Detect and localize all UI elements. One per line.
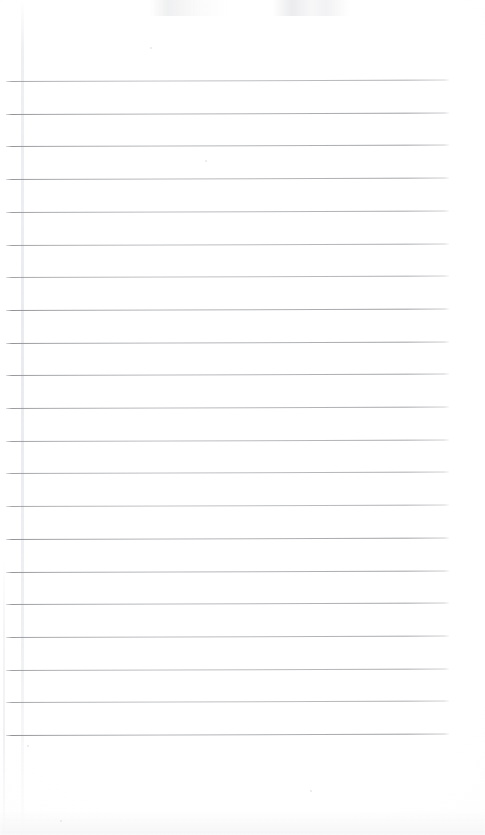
scanned-page: Blank lined notebook page bbox=[0, 0, 485, 835]
paper-surface bbox=[0, 0, 485, 835]
